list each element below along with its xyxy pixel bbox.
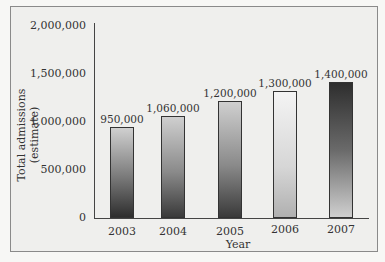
y-tick-2000000: 2,000,000 (10, 19, 86, 32)
x-tick-2007: 2007 (321, 223, 361, 236)
bar-2004 (161, 116, 185, 218)
value-label-2006: 1,300,000 (255, 77, 315, 89)
y-tick-500000: 500,000 (10, 163, 86, 176)
x-axis-line (94, 218, 369, 219)
value-label-2005: 1,200,000 (200, 87, 260, 99)
x-tick-2006: 2006 (265, 223, 305, 236)
y-axis-label: Total admissions (estimate) (15, 65, 41, 205)
x-tick-2003: 2003 (102, 225, 142, 238)
bar-2006 (273, 91, 297, 218)
value-label-2004: 1,060,000 (143, 102, 203, 114)
x-tick-2004: 2004 (153, 225, 193, 238)
x-tick-2005: 2005 (210, 225, 250, 238)
y-tick-0: 0 (10, 211, 86, 224)
value-label-2007: 1,400,000 (311, 68, 371, 80)
y-tick-1000000: 1,000,000 (10, 115, 86, 128)
bar-2007 (329, 82, 353, 218)
y-tick-1500000: 1,500,000 (10, 67, 86, 80)
value-label-2003: 950,000 (92, 113, 152, 125)
bar-2005 (218, 101, 242, 218)
bar-2003 (110, 127, 134, 218)
x-axis-label: Year (213, 238, 263, 251)
